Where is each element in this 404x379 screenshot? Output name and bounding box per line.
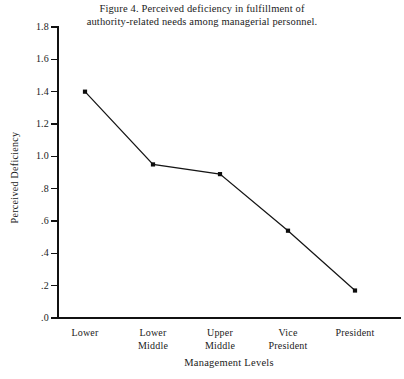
data-point-marker — [83, 90, 87, 94]
figure-container: Figure 4. Perceived deficiency in fulfil… — [0, 0, 404, 379]
x-axis-title: Management Levels — [57, 357, 401, 368]
data-point-marker — [151, 162, 155, 166]
x-axis-tick-label: President — [310, 327, 400, 340]
data-point-marker — [286, 229, 290, 233]
data-point-marker — [353, 288, 357, 292]
series-plot — [0, 0, 404, 379]
x-axis-tick-label-line: President — [243, 340, 333, 353]
data-point-marker — [218, 172, 222, 176]
x-axis-tick-label-line: President — [310, 327, 400, 340]
series-line — [85, 92, 355, 291]
